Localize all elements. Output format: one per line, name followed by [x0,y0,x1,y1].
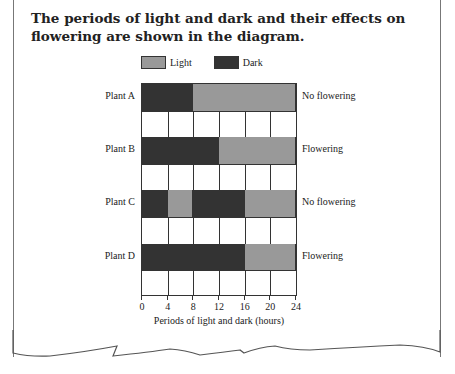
plant-label: Plant A [75,90,135,101]
x-tick-mark [218,296,219,300]
outcome-label: Flowering [302,250,343,261]
outcome-label: Flowering [302,143,343,154]
legend-swatch-dark [214,56,239,69]
outcome-label: No flowering [302,196,356,207]
torn-page-edge [0,330,455,374]
x-tick-label: 20 [260,301,280,312]
x-tick-mark [295,296,296,300]
x-tick-mark [244,296,245,300]
plant-label: Plant C [75,196,135,207]
legend-swatch-light [141,56,166,69]
x-axis-label: Periods of light and dark (hours) [141,315,297,326]
segment-light [245,244,296,271]
plant-label: Plant B [75,143,135,154]
segment-light [219,137,296,164]
segment-dark [193,190,244,217]
legend-label-light: Light [170,57,192,68]
x-tick-mark [269,296,270,300]
x-tick-label: 24 [286,301,306,312]
grid-line-horizontal [142,164,296,165]
x-tick-mark [141,296,142,300]
grid-line-horizontal [142,111,296,112]
segment-light [193,84,296,111]
x-tick-label: 4 [158,301,178,312]
x-tick-label: 12 [209,301,229,312]
page-border-left [13,0,14,357]
segment-dark [142,190,168,217]
x-tick-label: 0 [132,301,152,312]
page-border-right [440,0,441,357]
plant-label: Plant D [75,250,135,261]
question-title: The periods of light and dark and their … [31,9,431,45]
grid-line-horizontal [142,270,296,271]
segment-dark [142,244,245,271]
segment-light [245,190,296,217]
segment-light [168,190,194,217]
segment-dark [142,84,193,111]
grid-line-horizontal [142,217,296,218]
legend-label-dark: Dark [243,57,263,68]
photoperiod-chart [141,83,297,296]
legend: Light Dark [141,55,285,69]
x-tick-label: 16 [235,301,255,312]
x-tick-label: 8 [183,301,203,312]
x-tick-mark [167,296,168,300]
outcome-label: No flowering [302,90,356,101]
segment-dark [142,137,219,164]
x-tick-mark [192,296,193,300]
